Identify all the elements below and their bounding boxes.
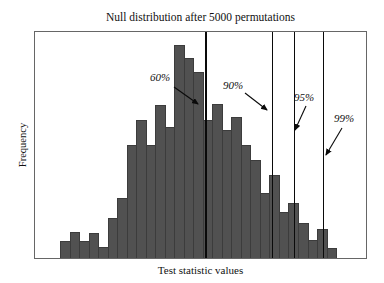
percentile-line-99: [323, 32, 325, 258]
x-axis-label: Test statistic values: [34, 264, 367, 276]
percentile-line-95: [294, 32, 296, 258]
percentile-label-99: 99%: [334, 112, 354, 124]
histogram-bar: [327, 248, 338, 258]
chart-title: Null distribution after 5000 permutation…: [34, 11, 367, 23]
percentile-line-90: [272, 32, 274, 258]
histogram-figure: Null distribution after 5000 permutation…: [0, 0, 384, 283]
percentile-label-60: 60%: [150, 71, 170, 83]
percentile-label-95: 95%: [294, 91, 314, 103]
plot-area: [34, 31, 367, 259]
percentile-label-90: 90%: [223, 79, 243, 91]
percentile-line-60: [205, 32, 207, 258]
y-axis-label: Frequency: [17, 123, 28, 167]
